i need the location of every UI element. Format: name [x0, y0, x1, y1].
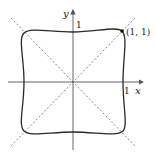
- point-marker: [120, 29, 124, 33]
- x-axis-label: x: [135, 85, 141, 96]
- curve-diagram: (1, 1) y 1 1 x: [0, 0, 155, 160]
- x-tick-label: 1: [124, 86, 130, 96]
- point-label: (1, 1): [126, 27, 150, 37]
- y-axis-label: y: [62, 8, 69, 19]
- y-tick-label: 1: [76, 20, 82, 30]
